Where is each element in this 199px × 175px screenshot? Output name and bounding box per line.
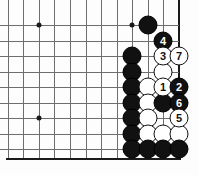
move-number-label: 4 [160,36,166,47]
go-board: 4371265 [0,0,199,175]
move-number-label: 1 [160,82,166,93]
move-number-label: 7 [176,51,182,62]
star-point-1 [130,23,135,28]
move-number-label: 5 [176,113,182,124]
move-number-label: 3 [160,51,166,62]
move-number-label: 6 [176,98,182,109]
grid-line-horizontal-2 [0,56,179,57]
stone-white-move-7: 7 [170,47,189,66]
stone-black [170,140,189,159]
move-number-label: 2 [176,82,182,93]
star-point-0 [37,23,42,28]
grid-line-horizontal-1 [0,41,179,42]
stone-white-move-5: 5 [170,109,189,128]
board-bottom-edge [6,158,181,160]
stone-black [139,16,158,35]
grid-line-horizontal-3 [0,72,179,73]
star-point-2 [37,116,42,121]
